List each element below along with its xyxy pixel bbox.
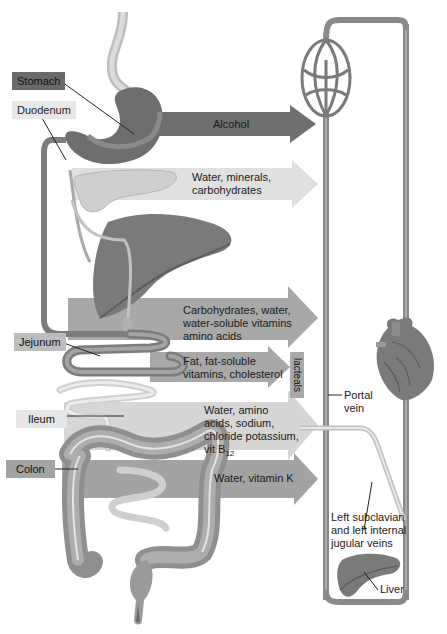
- text-line: Water, vitamin K: [214, 472, 294, 485]
- text-line: amino acids: [183, 330, 292, 343]
- ileum-arrow-text: Water, amino acids, sodium, chloride pot…: [204, 404, 299, 460]
- text-line: Fat, fat-soluble: [183, 355, 283, 368]
- subclavian-label: Left subclavian and left internal jugula…: [331, 511, 406, 550]
- text-line: vitamins, cholesterol: [183, 368, 283, 381]
- duodenum-label: Duodenum: [12, 101, 76, 119]
- portal-vein-label: Portal vein: [344, 389, 373, 415]
- lacteals-text: lacteals: [290, 352, 304, 398]
- liver-label: Liver: [380, 583, 404, 596]
- capillary-bed: [302, 40, 350, 116]
- text-line: water-soluble vitamins: [183, 317, 292, 330]
- fat-arrow-text: Fat, fat-soluble vitamins, cholesterol: [183, 355, 283, 381]
- lacteals-label: lacteals: [290, 352, 304, 398]
- text-line: jugular veins: [331, 537, 406, 550]
- ileum-label: Ileum: [16, 410, 67, 428]
- rectum: [130, 560, 153, 625]
- colon-label: Colon: [6, 460, 55, 478]
- alcohol-line: Alcohol: [213, 118, 249, 130]
- text-line: acids, sodium,: [204, 417, 299, 430]
- heart: [376, 317, 434, 400]
- text-line: Portal: [344, 389, 373, 402]
- stomach-label: Stomach: [12, 72, 65, 90]
- text-line: Carbohydrates, water,: [183, 304, 292, 317]
- text-line: chloride potassium,: [204, 430, 299, 443]
- text-line: Water, amino: [204, 404, 299, 417]
- jejunum-label: Jejunum: [14, 333, 66, 351]
- text-line: vein: [344, 402, 373, 415]
- colon-arrow-text: Water, vitamin K: [214, 472, 294, 485]
- duodenum-arrow-text: Water, minerals, carbohydrates: [192, 171, 271, 197]
- text-line: and left internal: [331, 524, 406, 537]
- text-line: carbohydrates: [192, 184, 271, 197]
- stomach: [65, 87, 162, 164]
- alcohol-text: Alcohol: [213, 118, 249, 131]
- text-line: Left subclavian: [331, 511, 406, 524]
- text-line: vit B12: [204, 443, 299, 460]
- text-line: Water, minerals,: [192, 171, 271, 184]
- jejunum-arrow-text: Carbohydrates, water, water-soluble vita…: [183, 304, 292, 343]
